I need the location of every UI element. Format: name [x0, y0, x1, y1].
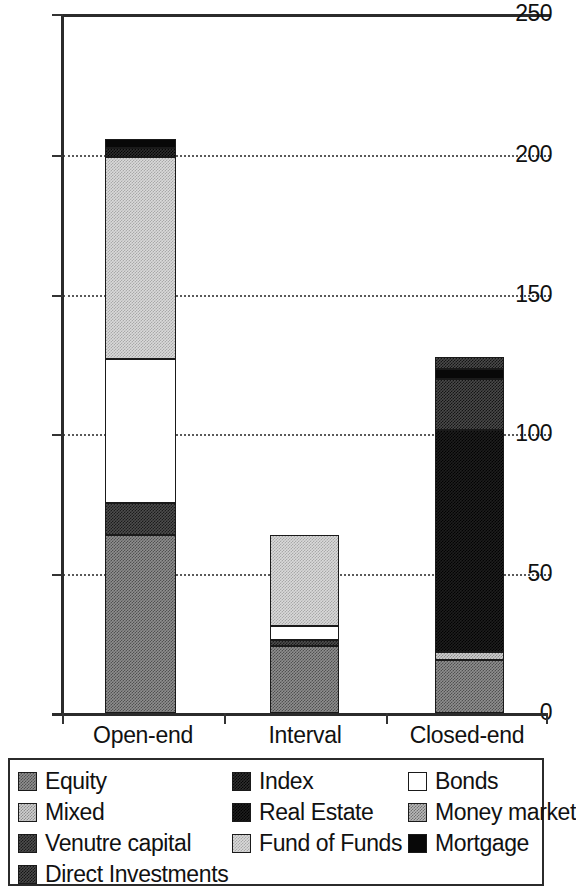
legend-item-real-estate[interactable]: Real Estate [232, 797, 404, 827]
bar-closed-end[interactable] [435, 357, 504, 713]
y-tick-mark-200 [52, 155, 63, 157]
legend-item-money-market[interactable]: Money market [408, 797, 554, 827]
money-market-swatch [408, 803, 427, 822]
legend-label-mixed: Mixed [45, 800, 104, 825]
segment-closed-end-equity[interactable] [435, 660, 504, 713]
legend-item-mortgage[interactable]: Mortgage [408, 828, 554, 858]
y-tick-mark-250 [52, 14, 63, 16]
y-tick-label-200: 200 [504, 143, 552, 166]
legend-label-bonds: Bonds [435, 769, 498, 794]
legend-item-direct-investments[interactable]: Direct Investments [18, 859, 228, 889]
segment-open-end-venture-capital[interactable] [105, 503, 176, 535]
y-axis-line [61, 14, 64, 715]
fund-of-funds-swatch [232, 834, 251, 853]
index-swatch [232, 772, 251, 791]
segment-interval-equity[interactable] [270, 646, 339, 713]
segment-closed-end-mortgage[interactable] [435, 369, 504, 379]
mixed-swatch [18, 803, 37, 822]
legend-label-equity: Equity [45, 769, 107, 794]
legend-item-venture-capital[interactable]: Venutre capital [18, 828, 228, 858]
segment-open-end-index[interactable] [105, 148, 176, 157]
legend-item-fund-of-funds[interactable]: Fund of Funds [232, 828, 404, 858]
y-tick-mark-50 [52, 574, 63, 576]
legend-column-3: Bonds Money market Mortgage [408, 766, 554, 859]
segment-open-end-fund-of-funds[interactable] [105, 157, 176, 359]
equity-swatch [18, 772, 37, 791]
legend-item-mixed[interactable]: Mixed [18, 797, 228, 827]
legend-label-index: Index [259, 769, 313, 794]
legend-label-fund-of-funds: Fund of Funds [259, 831, 402, 856]
y-tick-label-150: 150 [504, 283, 552, 306]
y-tick-mark-100 [52, 434, 63, 436]
legend-item-equity[interactable]: Equity [18, 766, 228, 796]
legend-label-money-market: Money market [435, 800, 576, 825]
x-axis-label-interval: Interval [224, 722, 386, 748]
y-tick-mark-150 [52, 295, 63, 297]
legend-item-index[interactable]: Index [232, 766, 404, 796]
bar-open-end[interactable] [105, 139, 176, 713]
segment-open-end-mortgage[interactable] [105, 139, 176, 148]
legend-label-venture-capital: Venutre capital [45, 831, 191, 856]
segment-interval-fund-of-funds[interactable] [270, 535, 339, 626]
segment-open-end-bonds[interactable] [105, 359, 176, 503]
x-axis-label-closed-end: Closed-end [386, 722, 548, 748]
bar-interval[interactable] [270, 535, 339, 713]
x-axis-label-open-end: Open-end [62, 722, 224, 748]
legend-column-2: Index Real Estate Fund of Funds [232, 766, 404, 859]
gridline-250 [63, 14, 550, 17]
y-tick-label-50: 50 [504, 562, 552, 585]
legend-column-1: Equity Mixed Venutre capital Direct Inve… [18, 766, 228, 890]
venture-capital-swatch [18, 834, 37, 853]
bonds-swatch [408, 772, 427, 791]
y-tick-label-250: 250 [504, 2, 552, 25]
stacked-bar-chart: 250 200 150 100 50 0 [0, 0, 552, 748]
real-estate-swatch [232, 803, 251, 822]
segment-open-end-equity[interactable] [105, 535, 176, 713]
x-axis-line [52, 713, 548, 716]
direct-investments-swatch [18, 865, 37, 884]
chart-legend: Equity Mixed Venutre capital Direct Inve… [8, 758, 544, 886]
mortgage-swatch [408, 834, 427, 853]
segment-closed-end-real-estate[interactable] [435, 430, 504, 652]
segment-closed-end-direct-investments-top[interactable] [435, 357, 504, 369]
legend-label-direct-investments: Direct Investments [45, 862, 228, 887]
legend-label-real-estate: Real Estate [259, 800, 374, 825]
legend-label-mortgage: Mortgage [435, 831, 529, 856]
segment-closed-end-direct-investments[interactable] [435, 379, 504, 430]
legend-item-bonds[interactable]: Bonds [408, 766, 554, 796]
y-tick-label-100: 100 [504, 422, 552, 445]
segment-closed-end-mixed[interactable] [435, 652, 504, 660]
segment-interval-bonds[interactable] [270, 626, 339, 640]
